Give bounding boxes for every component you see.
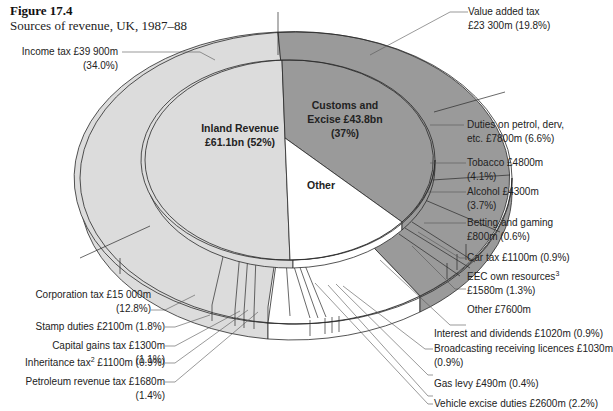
label-other-total: Other £7600m xyxy=(467,303,531,317)
label-gas-levy: Gas levy £490m (0.4%) xyxy=(434,377,539,391)
label-tobacco: Tobacco £4800m (4.1%) xyxy=(467,156,543,184)
label-car-tax: Car tax £1100m (0.9%) xyxy=(467,251,570,265)
label-income-tax: Income tax £39 900m (34.0%) xyxy=(22,45,118,73)
label-inheritance-tax: Inheritance tax2 £1100m (0.9%) xyxy=(25,356,165,370)
label-stamp-duties: Stamp duties £2100m (1.8%) xyxy=(35,320,165,334)
inland-revenue-label: Inland Revenue £61.1bn (52%) xyxy=(185,121,295,149)
label-broadcasting: Broadcasting receiving licences £1030m (… xyxy=(434,342,613,370)
label-eec-own-resources: EEC own resources3 £1580m (1.3%) xyxy=(467,270,559,298)
label-petrol-duties: Duties on petrol, derv, etc. £7800m (6.6… xyxy=(467,118,564,146)
label-interest-dividends: Interest and dividends £1020m (0.9%) xyxy=(434,327,603,341)
inner-pie-top xyxy=(141,60,435,260)
label-vehicle-excise: Vehicle excise duties £2600m (2.2%) xyxy=(434,397,598,411)
customs-excise-label: Customs and Excise £43.8bn (37%) xyxy=(295,98,395,140)
other-label: Other xyxy=(296,178,346,192)
label-petroleum-revenue-tax: Petroleum revenue tax £1680m (1.4%) xyxy=(25,375,165,403)
label-corporation-tax: Corporation tax £15 000m (12.8%) xyxy=(35,288,151,316)
label-vat: Value added tax £23 300m (19.8%) xyxy=(468,5,550,33)
label-alcohol: Alcohol £4300m (3.7%) xyxy=(467,185,539,213)
label-betting-gaming: Betting and gaming £800m (0.6%) xyxy=(467,216,553,244)
